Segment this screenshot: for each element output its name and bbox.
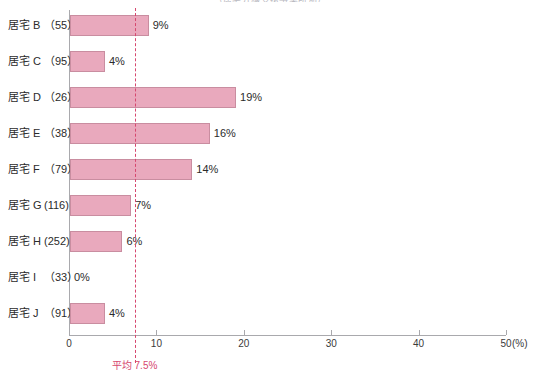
x-axis-tick-label: 50 (500, 338, 511, 349)
category-count: （38） (44, 123, 66, 144)
category-count: （79） (44, 159, 66, 180)
average-reference-line (135, 8, 136, 363)
bar-value-label: 19% (240, 87, 262, 108)
bar (70, 303, 105, 324)
x-axis-tick-label: 30 (326, 338, 337, 349)
category-count: （55） (44, 15, 66, 36)
category-count: （26） (44, 87, 66, 108)
plot-area: 居宅 B（55）9%居宅 C（95）4%居宅 D（26）19%居宅 E（38）1… (0, 0, 540, 378)
category-count: （91） (44, 303, 66, 324)
bar-value-label: 14% (196, 159, 218, 180)
bar-value-label: 7% (135, 195, 151, 216)
x-axis-unit-label: (%) (512, 338, 528, 349)
x-axis-tick (331, 330, 332, 335)
bar (70, 123, 210, 144)
bar-chart: （居宅介護支援事業所別） 居宅 B（55）9%居宅 C（95）4%居宅 D（26… (0, 0, 540, 378)
x-axis-tick-label: 20 (238, 338, 249, 349)
category-count: （33） (44, 267, 66, 288)
category-count: (252) (44, 231, 66, 252)
category-count: （95） (44, 51, 66, 72)
x-axis-tick (244, 330, 245, 335)
x-axis-tick-label: 10 (151, 338, 162, 349)
x-axis-tick (69, 330, 70, 335)
bar-value-label: 4% (109, 51, 125, 72)
bar (70, 159, 192, 180)
bar (70, 87, 236, 108)
bar (70, 51, 105, 72)
bar (70, 231, 122, 252)
x-axis-tick (506, 330, 507, 335)
bar (70, 195, 131, 216)
average-reference-label: 平均 7.5% (112, 357, 158, 372)
bar-value-label: 4% (109, 303, 125, 324)
category-count: (116) (44, 195, 66, 216)
x-axis-tick (156, 330, 157, 335)
bar-value-label: 16% (214, 123, 236, 144)
x-axis-tick-label: 40 (413, 338, 424, 349)
bar-value-label: 9% (153, 15, 169, 36)
x-axis-tick (419, 330, 420, 335)
x-axis-tick-label: 0 (66, 338, 72, 349)
bar (70, 15, 149, 36)
bar-value-label: 0% (74, 267, 90, 288)
